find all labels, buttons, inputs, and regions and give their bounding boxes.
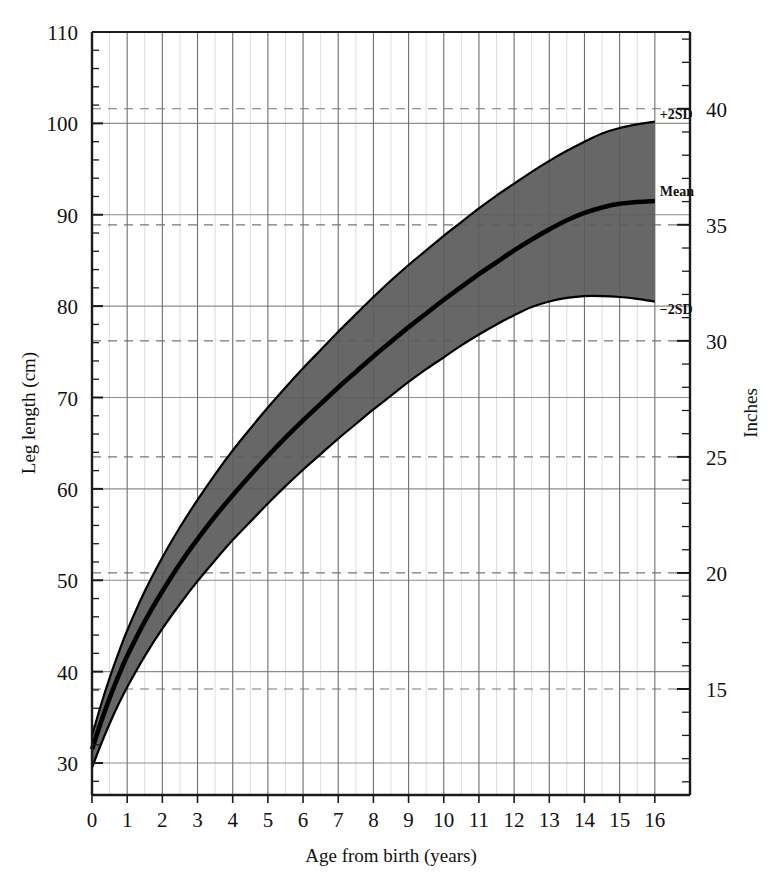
y2-tick-label: 20 [706,562,727,586]
y2-axis-title: Inches [740,388,761,438]
y-tick-label: 100 [47,112,79,136]
leg-length-growth-chart: 30405060708090100110 152025303540 012345… [0,0,780,886]
growth-chart-figure: 30405060708090100110 152025303540 012345… [0,0,780,886]
x-tick-label: 5 [263,808,274,832]
x-tick-label: 12 [504,808,525,832]
y-tick-label: 80 [57,295,78,319]
curve-label-2sd: −2SD [660,302,693,317]
x-tick-label: 4 [227,808,238,832]
x-tick-label: 9 [403,808,414,832]
x-tick-label: 6 [298,808,309,832]
x-tick-label: 13 [539,808,560,832]
x-tick-label: 0 [87,808,98,832]
curve-label-mean: Mean [660,184,694,199]
x-tick-label: 15 [609,808,630,832]
x-tick-label: 14 [574,808,596,832]
x-tick-label: 10 [433,808,454,832]
y-tick-label: 60 [57,478,78,502]
y-tick-label: 90 [57,204,78,228]
y2-tick-label: 25 [706,446,727,470]
y2-tick-label: 30 [706,330,727,354]
x-axis-title: Age from birth (years) [305,845,476,867]
y2-tick-label: 15 [706,678,727,702]
y2-tick-label: 35 [706,214,727,238]
x-tick-label: 8 [368,808,379,832]
curve-label-2sd: +2SD [660,107,693,122]
y-tick-label: 110 [47,21,78,45]
y2-tick-label: 40 [706,98,727,122]
y-tick-label: 40 [57,661,78,685]
x-tick-label: 1 [122,808,133,832]
y-tick-label: 30 [57,752,78,776]
x-tick-label: 3 [192,808,203,832]
x-tick-label: 2 [157,808,168,832]
x-tick-label: 16 [644,808,665,832]
x-tick-label: 11 [469,808,489,832]
y-axis-title: Leg length (cm) [18,352,40,474]
x-tick-label: 7 [333,808,344,832]
y-tick-label: 70 [57,387,78,411]
y-tick-label: 50 [57,569,78,593]
